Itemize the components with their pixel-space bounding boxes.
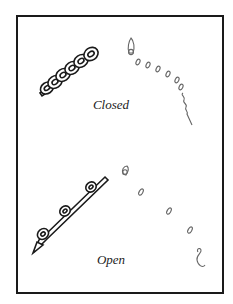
open-coil-drawing xyxy=(33,177,108,253)
coil-diagram-figure: Closed Open xyxy=(0,0,233,304)
open-caption: Open xyxy=(97,253,125,266)
open-panel: Open xyxy=(0,0,233,152)
open-side-view-rings xyxy=(122,166,205,266)
